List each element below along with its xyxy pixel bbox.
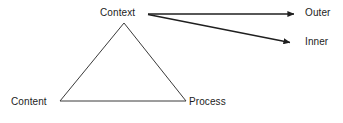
node-label-context: Context: [100, 7, 135, 19]
node-label-process: Process: [189, 96, 226, 108]
node-label-inner: Inner: [305, 36, 328, 48]
diagram-graphics: [0, 0, 343, 123]
triangle-shape: [60, 23, 186, 101]
node-label-outer: Outer: [305, 7, 331, 19]
node-label-content: Content: [11, 96, 47, 108]
arrow-context-to-inner: [148, 15, 290, 43]
diagram-canvas: Context Content Process Outer Inner: [0, 0, 343, 123]
